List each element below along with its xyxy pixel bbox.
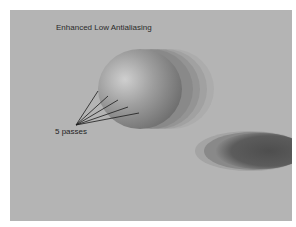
render-canvas: Enhanced Low Antialiasing 5 passes <box>10 10 292 221</box>
render-title: Enhanced Low Antialiasing <box>56 23 152 32</box>
passes-label: 5 passes <box>55 127 87 136</box>
shadow-passes <box>195 131 292 171</box>
scene-graphics <box>10 10 292 221</box>
sphere-passes <box>98 49 214 129</box>
